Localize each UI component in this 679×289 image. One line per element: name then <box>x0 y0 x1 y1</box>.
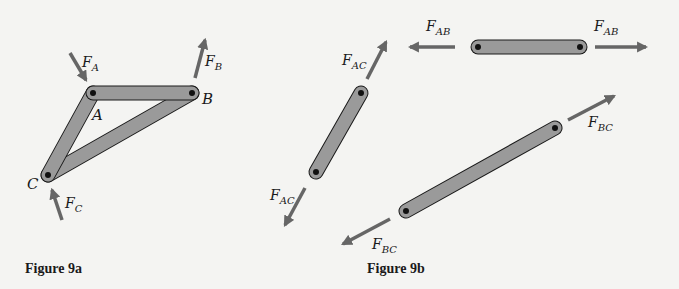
label-force-fac-top: FAC <box>341 52 367 71</box>
pin-b <box>189 90 195 96</box>
label-force-fc: FC <box>64 195 83 214</box>
caption-figure-9b: Figure 9b <box>367 261 425 276</box>
label-force-fbc-top: FBC <box>587 114 613 133</box>
arrow-fac-bottom-icon <box>285 188 305 225</box>
label-point-b: B <box>201 90 213 108</box>
label-force-fa: FA <box>81 54 99 73</box>
free-body-diagram: A B C FA FB FC Figure 9a <box>0 0 679 289</box>
label-point-c: C <box>27 175 39 193</box>
arrow-fc-icon <box>52 190 62 220</box>
label-force-fab-right: FAB <box>593 18 618 37</box>
label-point-a: A <box>90 106 103 124</box>
label-force-fbc-bottom: FBC <box>371 236 397 255</box>
member-ac <box>313 90 364 175</box>
label-force-fac-bottom: FAC <box>269 187 295 206</box>
arrow-fbc-bottom-icon <box>343 219 390 244</box>
member-ab <box>475 44 583 50</box>
figure-9a: A B C FA FB FC Figure 9a <box>25 40 222 276</box>
member-bc <box>403 125 558 214</box>
label-force-fab-left: FAB <box>425 18 450 37</box>
pin-a <box>90 90 96 96</box>
figure-9b: FAB FAB FAC FAC FBC FBC Figure 9b <box>269 18 646 276</box>
arrow-fb-icon <box>195 40 205 78</box>
caption-figure-9a: Figure 9a <box>25 261 82 276</box>
label-force-fb: FB <box>204 53 222 72</box>
pin-c <box>45 172 51 178</box>
arrow-fac-top-icon <box>367 42 386 79</box>
